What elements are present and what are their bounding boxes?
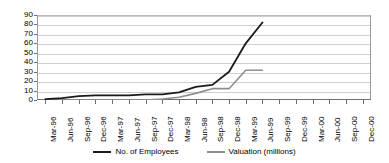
x-axis-tick bbox=[313, 100, 314, 104]
legend-item-employees: No. of Employees bbox=[93, 148, 178, 156]
x-axis-tick-label: Mar-98 bbox=[183, 117, 192, 142]
legend-swatch-employees bbox=[93, 151, 111, 153]
x-axis-tick bbox=[212, 100, 213, 104]
y-axis-tick-label: 80 bbox=[24, 20, 33, 28]
x-axis-tick-label: Dec-00 bbox=[367, 116, 376, 142]
x-axis-tick bbox=[129, 100, 130, 104]
y-axis-tick-label: 60 bbox=[24, 39, 33, 47]
x-axis-tick bbox=[162, 100, 163, 104]
x-axis-labels: Mar-96Jun-96Sep-96Dec-96Mar-97Jun-97Sep-… bbox=[0, 105, 389, 143]
x-axis-tick-label: Jun-99 bbox=[266, 118, 275, 142]
x-axis-tick bbox=[346, 100, 347, 104]
x-axis-tick-label: Dec-96 bbox=[99, 116, 108, 142]
y-axis-labels: 9080706050403020100 bbox=[0, 0, 33, 115]
x-axis-tick-label: Sep-98 bbox=[216, 116, 225, 142]
line-chart: 9080706050403020100 Mar-96Jun-96Sep-96De… bbox=[0, 0, 389, 163]
x-axis-tick-label: Sep-00 bbox=[350, 116, 359, 142]
x-axis-tick bbox=[363, 100, 364, 104]
x-axis-tick bbox=[112, 100, 113, 104]
x-axis-tick-label: Sep-99 bbox=[283, 116, 292, 142]
x-axis-tick-label: Mar-97 bbox=[116, 117, 125, 142]
x-axis-tick-label: Sep-97 bbox=[150, 116, 159, 142]
x-axis-tick bbox=[279, 100, 280, 104]
y-axis-tick-label: 20 bbox=[24, 77, 33, 85]
legend-item-valuation: Valuation (millions) bbox=[207, 148, 296, 156]
y-axis-tick-label: 30 bbox=[24, 68, 33, 76]
x-axis-tick bbox=[95, 100, 96, 104]
x-axis-tick-label: Mar-99 bbox=[250, 117, 259, 142]
legend: No. of Employees Valuation (millions) bbox=[0, 145, 389, 159]
x-axis-tick-label: Jun-97 bbox=[133, 118, 142, 142]
x-axis-tick bbox=[262, 100, 263, 104]
x-axis-tick bbox=[146, 100, 147, 104]
x-axis-tick bbox=[196, 100, 197, 104]
x-axis-tick bbox=[329, 100, 330, 104]
x-axis-tick bbox=[45, 100, 46, 104]
x-axis-tick bbox=[296, 100, 297, 104]
x-axis-tick-label: Jun-98 bbox=[200, 118, 209, 142]
x-axis-tick bbox=[229, 100, 230, 104]
x-axis-tick-label: Jun-96 bbox=[66, 118, 75, 142]
x-axis-tick-label: Dec-97 bbox=[166, 116, 175, 142]
y-axis-tick-label: 50 bbox=[24, 49, 33, 57]
x-axis-tick bbox=[246, 100, 247, 104]
x-axis-tick-label: Dec-98 bbox=[233, 116, 242, 142]
x-axis-tick bbox=[79, 100, 80, 104]
x-axis-tick-label: Jun-00 bbox=[333, 118, 342, 142]
data-series bbox=[37, 15, 371, 100]
legend-label-employees: No. of Employees bbox=[115, 148, 178, 156]
y-axis-tick-label: 10 bbox=[24, 87, 33, 95]
x-axis-tick-label: Dec-99 bbox=[300, 116, 309, 142]
x-axis-tick bbox=[179, 100, 180, 104]
y-axis-tick-label: 70 bbox=[24, 30, 33, 38]
x-axis-tick-label: Sep-96 bbox=[83, 116, 92, 142]
legend-label-valuation: Valuation (millions) bbox=[229, 148, 296, 156]
y-axis-tick-label: 40 bbox=[24, 58, 33, 66]
x-axis-tick-label: Mar-96 bbox=[49, 117, 58, 142]
y-axis-tick-label: 90 bbox=[24, 11, 33, 19]
x-axis-tick-label: Mar-00 bbox=[317, 117, 326, 142]
x-axis-tick bbox=[62, 100, 63, 104]
legend-swatch-valuation bbox=[207, 151, 225, 153]
